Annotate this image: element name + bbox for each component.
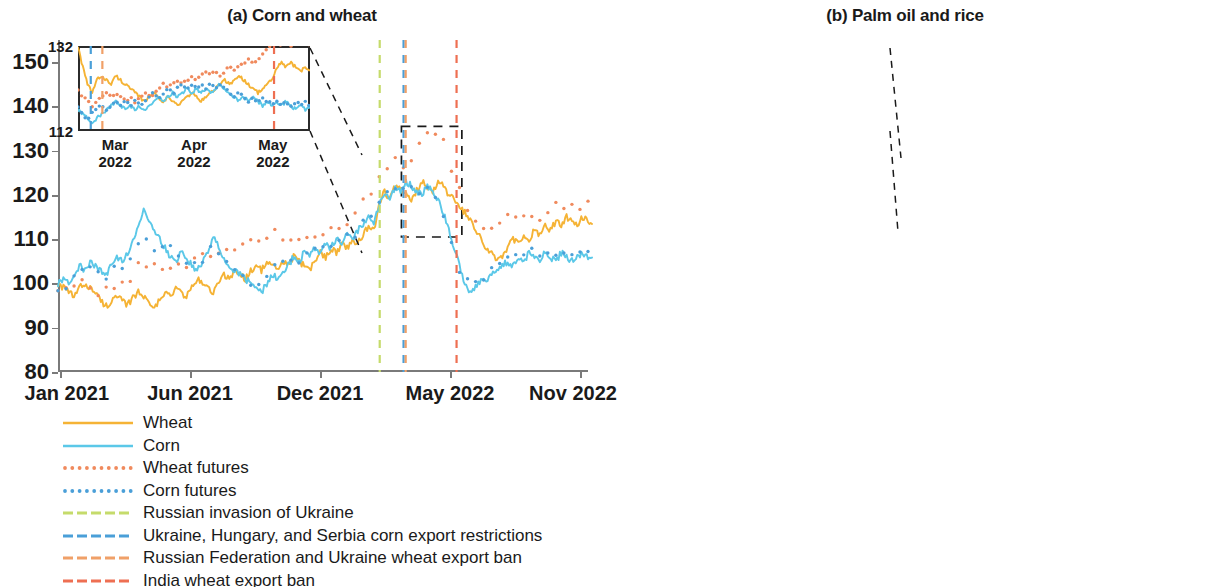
panel-a-title: (a) Corn and wheat xyxy=(0,6,604,26)
panel-a-y-tick-label: 120 xyxy=(12,182,49,208)
panel-a-legend-label: Wheat futures xyxy=(143,458,249,478)
panel-a-inset-x-label: May2022 xyxy=(256,137,289,171)
panel-a-y-tick-label: 140 xyxy=(12,93,49,119)
panel-a-legend-label: Corn xyxy=(143,436,180,456)
panel-a-legend-label: Corn futures xyxy=(143,481,237,501)
panel-a-legend-item[interactable]: Corn xyxy=(62,435,542,458)
panel-a-legend-item[interactable]: Russian Federation and Ukraine wheat exp… xyxy=(62,547,542,570)
panel-a-inset: 132 112 Mar2022Apr2022May2022 xyxy=(78,46,310,131)
panel-a-legend-key-dashed-icon xyxy=(62,506,134,520)
panel-a-inset-x-label-line: May xyxy=(256,137,289,154)
panel-a-legend-key-solid-icon xyxy=(62,439,134,453)
panel-a-inset-x-label-line: 2022 xyxy=(98,154,131,171)
panel-a-x-tick-label: May 2022 xyxy=(406,382,495,405)
panel-a-x-tick xyxy=(60,372,62,378)
panel-a-inset-ybottom: 112 xyxy=(49,123,73,140)
figure-root: (a) Corn and wheat 150140130120110100908… xyxy=(0,0,1207,587)
panel-a-x-tick xyxy=(580,372,582,378)
panel-a-legend-key-dashed-icon xyxy=(62,551,134,565)
panel-a-y-tick xyxy=(52,372,58,374)
panel-a-legend-label: Russian invasion of Ukraine xyxy=(143,503,354,523)
panel-a-x-tick-label: Dec 2021 xyxy=(277,382,364,405)
panel-a-legend-label: Russian Federation and Ukraine wheat exp… xyxy=(143,548,522,568)
panel-a-x-tick-label: Jun 2021 xyxy=(147,382,233,405)
panel-a-legend-label: India wheat export ban xyxy=(143,571,315,587)
panel-a-legend-key-solid-icon xyxy=(62,416,134,430)
panel-a-x-tick xyxy=(320,372,322,378)
panel-a-legend-item[interactable]: Russian invasion of Ukraine xyxy=(62,502,542,525)
panel-a-inset-x-label-line: 2022 xyxy=(256,154,289,171)
panel-b-title: (b) Palm oil and rice xyxy=(603,6,1207,26)
panel-a-x-tick-label: Jan 2021 xyxy=(25,382,110,405)
panel-a-y-tick-label: 110 xyxy=(14,226,50,252)
panel-a-y-tick-label: 90 xyxy=(25,315,49,341)
panel-a-legend-item[interactable]: Corn futures xyxy=(62,480,542,503)
panel-a-y-tick-label: 150 xyxy=(12,49,49,75)
panel-a-x-tick xyxy=(450,372,452,378)
panel-a-x-tick xyxy=(190,372,192,378)
panel-a-y-tick-label: 100 xyxy=(12,270,49,296)
panel-a-inset-svg xyxy=(78,46,310,131)
panel-a-inset-x-label: Apr2022 xyxy=(177,137,210,171)
panel-a-legend-key-dashed-icon xyxy=(62,574,134,587)
panel-a-legend-item[interactable]: Wheat xyxy=(62,412,542,435)
panel-a-legend-label: Wheat xyxy=(143,413,192,433)
panel-a-inset-x-label-line: Mar xyxy=(98,137,131,154)
panel-a-legend-key-dotted-icon xyxy=(62,484,134,498)
panel-corn-and-wheat: (a) Corn and wheat 150140130120110100908… xyxy=(0,0,604,587)
panel-a-legend-key-dotted-icon xyxy=(62,461,134,475)
panel-a-y-tick-label: 130 xyxy=(12,138,49,164)
panel-a-inset-ytop: 132 xyxy=(48,38,73,55)
panel-a-inset-x-label-line: 2022 xyxy=(177,154,210,171)
panel-a-inset-x-label-line: Apr xyxy=(177,137,210,154)
panel-a-legend: WheatCornWheat futuresCorn futuresRussia… xyxy=(62,412,542,587)
panel-a-legend-item[interactable]: Wheat futures xyxy=(62,457,542,480)
panel-a-legend-item[interactable]: Ukraine, Hungary, and Serbia corn export… xyxy=(62,525,542,548)
panel-a-legend-key-dashed-icon xyxy=(62,529,134,543)
panel-a-legend-label: Ukraine, Hungary, and Serbia corn export… xyxy=(143,526,542,546)
panel-a-inset-x-label: Mar2022 xyxy=(98,137,131,171)
panel-a-legend-item[interactable]: India wheat export ban xyxy=(62,570,542,587)
panel-palm-oil-and-rice: (b) Palm oil and rice 200180160140120100… xyxy=(603,0,1207,587)
